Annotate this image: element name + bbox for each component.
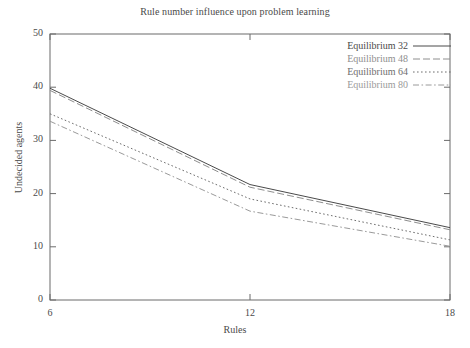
series-line [50, 114, 450, 240]
legend-label: Equilibrium 80 [347, 79, 412, 90]
legend-label: Equilibrium 48 [347, 53, 412, 64]
chart-legend: Equilibrium 32Equilibrium 48Equilibrium … [318, 39, 452, 91]
series-line [50, 90, 450, 229]
legend-label: Equilibrium 64 [347, 66, 412, 77]
chart-container: Rule number influence upon problem learn… [0, 0, 470, 348]
x-tick-label: 12 [235, 307, 265, 318]
legend-line-sample [412, 41, 452, 51]
legend-item[interactable]: Equilibrium 32 [318, 39, 452, 52]
legend-line-sample [412, 54, 452, 64]
x-tick-label: 18 [435, 307, 465, 318]
y-tick-label: 50 [17, 27, 43, 38]
y-axis-title: Undecided agents [13, 88, 24, 228]
legend-item[interactable]: Equilibrium 80 [318, 78, 452, 91]
x-tick-label: 6 [35, 307, 65, 318]
series-line [50, 88, 450, 227]
legend-line-sample [412, 67, 452, 77]
y-tick-label: 0 [17, 293, 43, 304]
legend-item[interactable]: Equilibrium 64 [318, 65, 452, 78]
legend-line-sample [412, 80, 452, 90]
legend-label: Equilibrium 32 [347, 40, 412, 51]
legend-item[interactable]: Equilibrium 48 [318, 52, 452, 65]
y-tick-label: 10 [17, 240, 43, 251]
x-axis-title: Rules [0, 324, 470, 335]
series-lines [50, 88, 450, 246]
